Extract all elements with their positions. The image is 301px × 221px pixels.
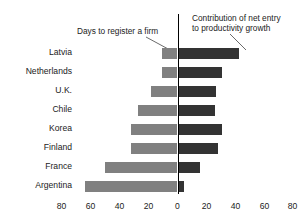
bar-right bbox=[179, 143, 218, 154]
bar-left bbox=[105, 162, 178, 173]
x-tick-label: 60 bbox=[260, 201, 270, 211]
bar-row: U.K. bbox=[0, 82, 301, 101]
bar-left bbox=[131, 124, 177, 135]
bar-right bbox=[179, 86, 217, 97]
x-axis: 80 60 40 20 0 20 40 60 80 bbox=[0, 194, 301, 221]
category-label: U.K. bbox=[0, 85, 72, 95]
bar-row: Latvia bbox=[0, 44, 301, 63]
x-tick-label: 40 bbox=[115, 201, 125, 211]
bar-left bbox=[151, 86, 177, 97]
diverging-bar-chart: Days to register a firm Contribution of … bbox=[0, 0, 301, 221]
bar-row: Finland bbox=[0, 139, 301, 158]
bar-left bbox=[162, 48, 178, 59]
bar-left bbox=[162, 67, 178, 78]
bar-right bbox=[179, 105, 215, 116]
bar-row: Netherlands bbox=[0, 63, 301, 82]
category-label: Argentina bbox=[0, 180, 72, 190]
x-tick-label: 20 bbox=[202, 201, 212, 211]
bar-left bbox=[85, 181, 178, 192]
category-label: Korea bbox=[0, 123, 72, 133]
bar-row: Korea bbox=[0, 120, 301, 139]
plot-area: Latvia Netherlands U.K. Chile Korea Finl… bbox=[0, 0, 301, 196]
bar-right bbox=[179, 181, 185, 192]
x-tick-label: 0 bbox=[175, 201, 180, 211]
bar-left bbox=[138, 105, 177, 116]
x-tick-label: 60 bbox=[86, 201, 96, 211]
x-tick-label: 80 bbox=[57, 201, 67, 211]
bar-left bbox=[131, 143, 177, 154]
bar-right bbox=[179, 48, 240, 59]
category-label: Finland bbox=[0, 142, 72, 152]
bar-row: Chile bbox=[0, 101, 301, 120]
bar-right bbox=[179, 124, 223, 135]
category-label: Netherlands bbox=[0, 66, 72, 76]
category-label: Chile bbox=[0, 104, 72, 114]
x-tick-label: 40 bbox=[231, 201, 241, 211]
bar-right bbox=[179, 67, 223, 78]
category-label: France bbox=[0, 161, 72, 171]
bar-right bbox=[179, 162, 201, 173]
category-label: Latvia bbox=[0, 47, 72, 57]
x-tick-label: 80 bbox=[288, 201, 298, 211]
bar-row: France bbox=[0, 158, 301, 177]
x-tick-label: 20 bbox=[144, 201, 154, 211]
